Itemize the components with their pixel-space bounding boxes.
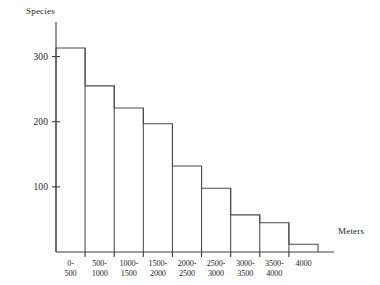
x-tick-label: 3500-4000 (265, 259, 284, 278)
x-tick-label: 3000-3500 (236, 259, 255, 278)
bars-group (56, 48, 318, 252)
x-tick-label-group: 0-500500-10001000-15001500-20002000-2500… (65, 259, 312, 278)
x-tick-label: 500-1000 (92, 259, 108, 278)
x-tick-label: 0-500 (65, 259, 77, 278)
y-tick-label: 200 (33, 117, 48, 127)
x-tick-label: 1500-2000 (149, 259, 168, 278)
x-tick-label: 1000-1500 (119, 259, 138, 278)
axes-group (56, 22, 334, 252)
y-tick-label: 300 (33, 52, 48, 62)
plot-area: 100200300 0-500500-10001000-15001500-200… (0, 0, 380, 285)
histogram-chart: Species Meters 100200300 0-500500-100010… (0, 0, 380, 285)
histogram-outline (56, 48, 318, 252)
x-tick-label: 4000 (295, 259, 311, 268)
x-tick-group (85, 252, 289, 257)
x-tick-label: 2000-2500 (178, 259, 197, 278)
x-tick-label: 2500-3000 (207, 259, 226, 278)
y-tick-label: 100 (33, 182, 48, 192)
